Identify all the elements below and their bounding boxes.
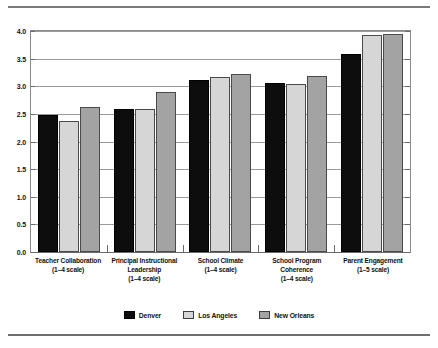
y-axis-tick-label: 2.0 bbox=[17, 138, 26, 145]
category-scale: (1–5 scale) bbox=[335, 265, 411, 274]
x-axis-category-label: Teacher Collaboration(1–4 scale) bbox=[30, 256, 106, 304]
chart-legend: DenverLos AngelesNew Orleans bbox=[0, 311, 438, 319]
y-axis-tick-label: 3.5 bbox=[17, 55, 26, 62]
legend-item: Los Angeles bbox=[183, 311, 237, 319]
group-separators bbox=[31, 31, 410, 252]
top-rule bbox=[8, 6, 430, 8]
category-name: Parent Engagement bbox=[343, 257, 402, 264]
axis-tick-separator bbox=[334, 245, 335, 252]
axis-tick-separator bbox=[258, 245, 259, 252]
gridline bbox=[31, 252, 410, 253]
legend-swatch-icon bbox=[259, 311, 270, 319]
x-axis-category-label: Principal Instructional Leadership(1–4 s… bbox=[106, 256, 182, 304]
category-name: School Climate bbox=[198, 257, 244, 264]
legend-label: New Orleans bbox=[274, 312, 314, 319]
plot-area: 4.03.53.02.52.01.51.00.50.0 bbox=[30, 30, 411, 253]
category-scale: (1–4 scale) bbox=[30, 265, 106, 274]
category-scale: (1–4 scale) bbox=[106, 274, 182, 283]
category-name: School Program Coherence bbox=[272, 257, 321, 273]
legend-item: New Orleans bbox=[259, 311, 314, 319]
legend-swatch-icon bbox=[183, 311, 194, 319]
y-axis-tick-label: 3.0 bbox=[17, 83, 26, 90]
y-axis-tick-label: 4.0 bbox=[17, 28, 26, 35]
legend-swatch-icon bbox=[124, 311, 135, 319]
y-axis-tick-label: 1.0 bbox=[17, 193, 26, 200]
legend-label: Los Angeles bbox=[198, 312, 237, 319]
axis-tick-separator bbox=[183, 245, 184, 252]
category-name: Principal Instructional Leadership bbox=[111, 257, 177, 273]
axis-tick-separator bbox=[107, 245, 108, 252]
category-scale: (1–4 scale) bbox=[259, 274, 335, 283]
chart-figure: 4.03.53.02.52.01.51.00.50.0 Teacher Coll… bbox=[0, 0, 438, 348]
x-axis-category-label: School Program Coherence(1–4 scale) bbox=[259, 256, 335, 304]
y-axis-tick-label: 2.5 bbox=[17, 110, 26, 117]
y-axis-tick-label: 1.5 bbox=[17, 166, 26, 173]
y-axis-tick-mark bbox=[31, 252, 35, 253]
x-axis-labels: Teacher Collaboration(1–4 scale)Principa… bbox=[30, 256, 411, 304]
legend-item: Denver bbox=[124, 311, 161, 319]
y-axis-tick-label: 0.0 bbox=[17, 249, 26, 256]
legend-label: Denver bbox=[139, 312, 161, 319]
bottom-rule bbox=[8, 334, 430, 336]
x-axis-category-label: Parent Engagement(1–5 scale) bbox=[335, 256, 411, 304]
y-axis-tick-mark bbox=[405, 252, 410, 253]
x-axis-category-label: School Climate(1–4 scale) bbox=[182, 256, 258, 304]
y-axis-tick-label: 0.5 bbox=[17, 221, 26, 228]
category-name: Teacher Collaboration bbox=[35, 257, 101, 264]
category-scale: (1–4 scale) bbox=[182, 265, 258, 274]
